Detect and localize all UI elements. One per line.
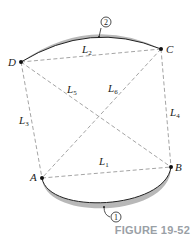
diagram-figure: A B C D L1 L2 L3 L4 L5 L6 2 1 FIGURE 19-… [0,0,192,239]
segment-L2-label: L2 [81,43,92,57]
point-a-label: A [29,171,37,183]
point-c-label: C [166,43,174,55]
segment-L4-label: L4 [169,106,180,120]
segment-L6-label: L6 [107,82,118,96]
point-c-dot [159,47,163,51]
callout-1-leader [104,207,110,217]
arc-1-edge [42,167,171,203]
point-b-dot [169,165,173,169]
segment-L3-label: L3 [18,114,29,128]
point-a-dot [40,176,44,180]
figure-caption: FIGURE 19-52 [115,224,190,236]
callout-2-tick [98,36,100,38]
point-b-label: B [175,161,182,173]
diagram-canvas: A B C D L1 L2 L3 L4 L5 L6 2 1 [0,0,192,239]
point-d-label: D [7,56,16,68]
segment-L1-label: L1 [98,155,109,169]
callout-1-tick [103,206,105,208]
callout-2-number: 2 [104,18,108,27]
segment-L5-label: L5 [66,83,77,97]
point-d-dot [19,60,23,64]
segment-L5 [21,62,171,167]
callout-1-number: 1 [114,213,118,222]
